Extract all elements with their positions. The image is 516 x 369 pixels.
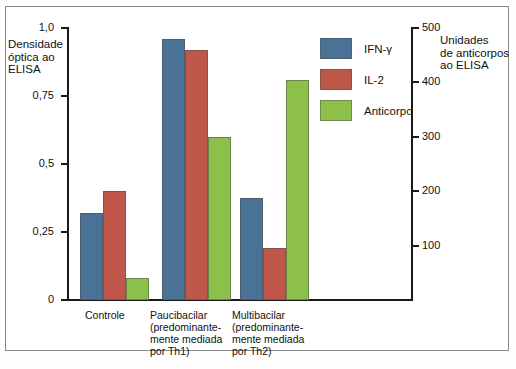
y-axis-right-tick-label: 100 [422, 240, 440, 251]
bar [286, 80, 309, 300]
y-axis-left-tick-label: 0,5 [0, 158, 54, 169]
bar [263, 248, 286, 300]
x-axis-category-label-line: Multibacilar [232, 309, 304, 321]
x-axis-category-label: Controle [85, 309, 125, 321]
y-axis-left-tick [61, 95, 68, 97]
y-axis-right-tick-label: 300 [422, 131, 440, 142]
bar [240, 198, 263, 300]
legend-swatch [320, 100, 352, 121]
legend-item: Anticorpo [320, 100, 413, 121]
y-axis-left-tick-label: 1,0 [0, 22, 54, 33]
legend-swatch [320, 69, 352, 90]
y-axis-left-tick [61, 27, 68, 29]
legend-label: IL-2 [364, 74, 384, 86]
x-axis-category-label-line: (predominante- [150, 321, 222, 333]
y-axis-right-tick [412, 27, 419, 29]
bar [208, 137, 231, 300]
x-axis-category-label-line: mente mediada [150, 333, 222, 345]
y-axis-left-tick-label: 0,75 [0, 90, 54, 101]
x-axis-category-label-line: Controle [85, 309, 125, 321]
y-axis-right-tick-label: 500 [422, 22, 440, 33]
y-axis-right-tick [412, 136, 419, 138]
y-axis-left-tick-label: 0,25 [0, 226, 54, 237]
y-axis-right-tick [412, 190, 419, 192]
bar [80, 213, 103, 300]
y-axis-right-tick [412, 245, 419, 247]
bar [162, 39, 185, 300]
y-axis-right-title-line-3: ao ELISA [440, 59, 514, 72]
y-axis-left-tick [61, 231, 68, 233]
x-axis-category-label-line: (predominante- [232, 321, 304, 333]
x-axis-category-label-line: por Th1) [150, 345, 222, 357]
y-axis-left-title-line-2: óptica ao [8, 51, 66, 64]
x-axis-category-label-line: mente mediada [232, 333, 304, 345]
y-axis-right-title-line-2: de anticorpos [440, 47, 514, 60]
y-axis-right-title: Unidades de anticorpos ao ELISA [440, 34, 514, 72]
x-axis-category-label: Paucibacilar(predominante-mente mediadap… [150, 309, 222, 357]
legend-item: IL-2 [320, 69, 413, 90]
chart-figure: Densidade óptica ao ELISA Unidades de an… [0, 0, 516, 369]
y-axis-right-tick-label: 200 [422, 185, 440, 196]
legend-swatch [320, 38, 352, 59]
y-axis-left-title: Densidade óptica ao ELISA [8, 38, 66, 76]
bar [126, 278, 149, 300]
y-axis-left-tick [61, 163, 68, 165]
y-axis-left-tick-label: 0 [0, 294, 54, 305]
y-axis-left-title-line-1: Densidade [8, 38, 66, 51]
y-axis-right-title-line-1: Unidades [440, 34, 514, 47]
y-axis-left-tick [61, 299, 68, 301]
y-axis-right-tick [412, 81, 419, 83]
x-axis-category-label-line: Paucibacilar [150, 309, 222, 321]
x-axis-category-label: Multibacilar(predominante-mente mediadap… [232, 309, 304, 357]
y-axis-right-tick-label: 400 [422, 76, 440, 87]
bar [103, 191, 126, 300]
legend-item: IFN-γ [320, 38, 413, 59]
legend-label: Anticorpo [364, 105, 413, 117]
legend-label: IFN-γ [364, 43, 392, 55]
y-axis-left-title-line-3: ELISA [8, 63, 66, 76]
bar [185, 50, 208, 300]
legend: IFN-γIL-2Anticorpo [320, 38, 413, 131]
x-axis-category-label-line: por Th2) [232, 345, 304, 357]
